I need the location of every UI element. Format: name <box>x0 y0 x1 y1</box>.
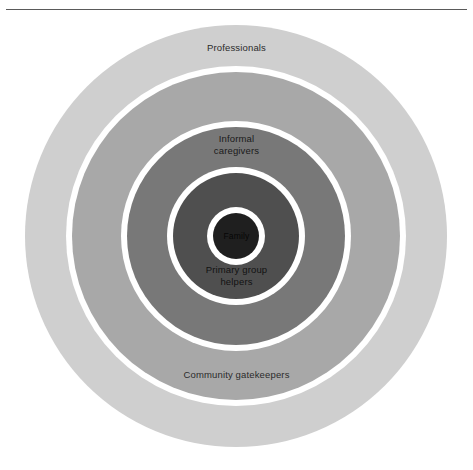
concentric-circles-diagram: Professionals Informal caregivers Family… <box>0 0 473 470</box>
ring-family <box>213 213 259 259</box>
